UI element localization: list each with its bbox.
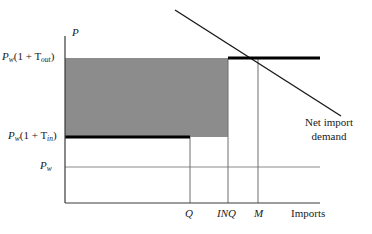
p-in-main: P xyxy=(8,129,15,141)
net-import-demand-label: Net import demand xyxy=(288,116,370,144)
imports-axis-label: Imports xyxy=(291,207,325,219)
p-w-sub: w xyxy=(47,164,52,173)
xtick-label-inq: INQ xyxy=(217,207,236,219)
price-axis-label: P xyxy=(72,26,79,38)
p-out-tail: (1 + T xyxy=(14,50,41,62)
quota-rent-shaded-area xyxy=(65,58,228,137)
price-label-p-in: Pw(1 + Tin) xyxy=(8,129,57,143)
p-in-tail: (1 + T xyxy=(20,129,47,141)
p-w-main: P xyxy=(40,159,47,171)
xtick-label-q: Q xyxy=(185,207,193,219)
p-out-tail-sub: out xyxy=(41,55,51,64)
price-label-p-w: Pw xyxy=(40,159,52,173)
import-quota-diagram: P Pw(1 + Tout) Pw(1 + Tin) Pw Q INQ M Im… xyxy=(0,0,372,234)
p-out-close: ) xyxy=(51,50,55,62)
price-label-p-out: Pw(1 + Tout) xyxy=(2,50,54,64)
xtick-label-m: M xyxy=(254,207,263,219)
p-out-main: P xyxy=(2,50,9,62)
p-in-close: ) xyxy=(53,129,57,141)
demand-label-line1: Net import xyxy=(305,116,353,128)
demand-label-line2: demand xyxy=(312,130,347,142)
